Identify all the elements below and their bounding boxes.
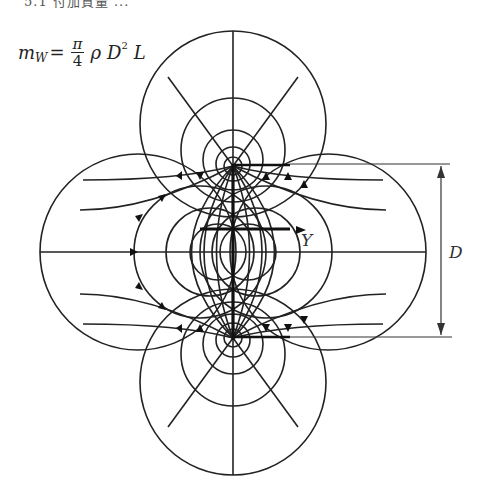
flow-net-diagram: Y D <box>0 0 485 495</box>
arrowhead-down <box>437 323 445 335</box>
label-Y: Y <box>301 230 314 250</box>
arrowhead-up <box>437 166 445 178</box>
label-D: D <box>448 242 463 262</box>
dimension-D <box>290 164 452 337</box>
